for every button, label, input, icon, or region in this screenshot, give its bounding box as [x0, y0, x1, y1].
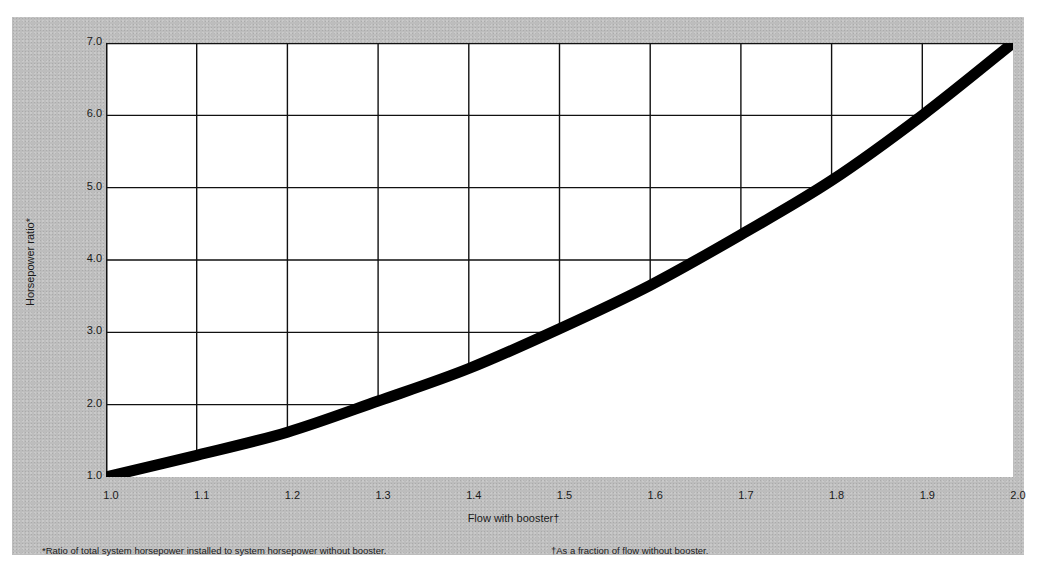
x-tick-label: 1.9 — [912, 489, 942, 501]
x-tick-label: 1.5 — [550, 489, 580, 501]
x-tick-label: 1.6 — [640, 489, 670, 501]
x-axis-label: Flow with booster† — [468, 512, 560, 524]
y-tick-label: 4.0 — [62, 252, 102, 264]
y-axis-label: Horsepower ratio* — [24, 218, 36, 306]
footnote-flow-fraction: †As a fraction of flow without booster. — [551, 545, 708, 556]
plot-svg — [106, 43, 1013, 477]
x-tick-label: 2.0 — [1003, 489, 1033, 501]
y-tick-label: 3.0 — [62, 324, 102, 336]
x-tick-label: 1.1 — [187, 489, 217, 501]
x-tick-label: 1.3 — [368, 489, 398, 501]
y-tick-label: 2.0 — [62, 397, 102, 409]
x-tick-label: 1.4 — [459, 489, 489, 501]
footnote-horsepower-ratio: *Ratio of total system horsepower instal… — [42, 545, 386, 556]
x-tick-label: 1.8 — [822, 489, 852, 501]
y-tick-label: 7.0 — [62, 35, 102, 47]
y-tick-label: 1.0 — [62, 469, 102, 481]
x-tick-label: 1.0 — [96, 489, 126, 501]
x-tick-label: 1.2 — [277, 489, 307, 501]
y-tick-label: 6.0 — [62, 107, 102, 119]
y-tick-label: 5.0 — [62, 180, 102, 192]
x-axis-label-row: Flow with booster† — [0, 512, 1047, 524]
plot-area — [106, 43, 1013, 477]
x-tick-label: 1.7 — [731, 489, 761, 501]
